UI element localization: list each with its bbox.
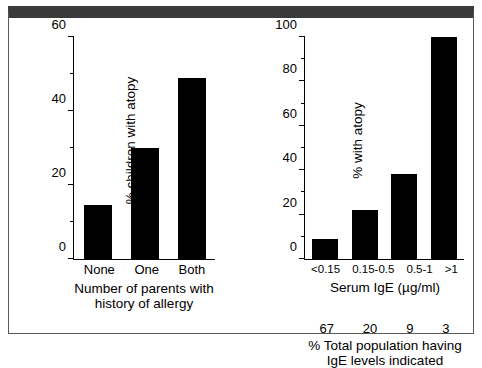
y-tick-label-right-100: 100 bbox=[275, 18, 297, 31]
x-axis-title-left-line2: history of allergy bbox=[44, 296, 244, 311]
population-value-gt-1: 3 bbox=[442, 321, 449, 336]
bar-ige-gt-1 bbox=[431, 37, 457, 259]
plot-area-left: % children with atopy 0 20 40 bbox=[73, 37, 215, 260]
population-value-lt-015: 67 bbox=[319, 321, 333, 336]
x-cat-ige-05-1: 0.5-1 bbox=[407, 263, 433, 275]
population-row-caption-line2: IgE levels indicated bbox=[285, 353, 482, 368]
y-tick-label-right-60: 60 bbox=[283, 106, 297, 119]
bar-series-right bbox=[305, 37, 464, 259]
x-axis-title-right: Serum IgE (µg/ml) bbox=[285, 280, 482, 295]
x-category-labels-right: <0.15 0.15-0.5 0.5-1 >1 bbox=[305, 263, 464, 275]
y-tick-label-right-80: 80 bbox=[283, 62, 297, 75]
bar-series-left bbox=[74, 37, 215, 259]
y-tick-label-right-20: 20 bbox=[283, 195, 297, 208]
x-cat-one: One bbox=[134, 262, 159, 277]
x-cat-both: Both bbox=[178, 262, 205, 277]
bar-ige-015-05 bbox=[352, 210, 378, 259]
y-tick-label-right-0: 0 bbox=[290, 240, 297, 253]
population-value-015-05: 20 bbox=[363, 321, 377, 336]
bar-one bbox=[131, 148, 159, 259]
population-row-caption: % Total population having IgE levels ind… bbox=[285, 338, 482, 368]
chart-panel-serum-ige: % with atopy 0 20 40 bbox=[242, 18, 473, 346]
y-tick-label-left-0: 0 bbox=[59, 240, 66, 253]
x-axis-title-left-line1: Number of parents with bbox=[44, 281, 244, 296]
bar-both bbox=[178, 78, 206, 259]
x-cat-ige-gt-1: >1 bbox=[445, 263, 458, 275]
x-cat-ige-015-05: 0.15-0.5 bbox=[352, 263, 394, 275]
y-tick-label-left-60: 60 bbox=[52, 18, 66, 31]
x-cat-ige-lt-015: <0.15 bbox=[311, 263, 340, 275]
bar-ige-05-1 bbox=[391, 174, 417, 259]
bar-none bbox=[84, 205, 112, 259]
population-value-05-1: 9 bbox=[406, 321, 413, 336]
y-tick-label-right-40: 40 bbox=[283, 151, 297, 164]
x-category-labels-left: None One Both bbox=[74, 262, 215, 277]
y-tick-label-left-40: 40 bbox=[52, 92, 66, 105]
population-row-caption-line1: % Total population having bbox=[285, 338, 482, 353]
y-tick-label-left-20: 20 bbox=[52, 166, 66, 179]
x-axis-title-left: Number of parents with history of allerg… bbox=[44, 281, 244, 311]
chart-panel-parental-allergy: % children with atopy 0 20 40 bbox=[9, 18, 242, 346]
plot-area-right: % with atopy 0 20 40 bbox=[304, 37, 464, 260]
bar-ige-lt-015 bbox=[312, 239, 338, 259]
figure-frame: % children with atopy 0 20 40 bbox=[8, 6, 474, 334]
x-cat-none: None bbox=[84, 262, 115, 277]
population-percentage-row: 67 20 9 3 bbox=[305, 321, 464, 336]
